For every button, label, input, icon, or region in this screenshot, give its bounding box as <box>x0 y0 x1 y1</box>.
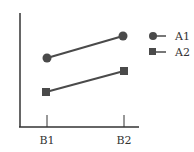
interaction-chart: B1 B2 A1 A2 <box>0 0 194 152</box>
legend: A1 A2 <box>149 30 190 59</box>
square-icon <box>42 88 50 96</box>
square-icon <box>120 67 128 75</box>
x-tick-label-b1: B1 <box>39 134 54 147</box>
series-a1 <box>43 32 128 63</box>
circle-icon <box>43 54 52 63</box>
legend-label-a1: A1 <box>174 30 190 43</box>
series-a2 <box>42 67 128 96</box>
circle-icon <box>119 32 128 41</box>
x-tick-label-b2: B2 <box>116 134 131 147</box>
legend-label-a2: A2 <box>174 46 190 59</box>
